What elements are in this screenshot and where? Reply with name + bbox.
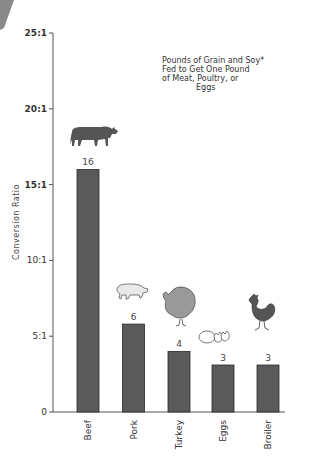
egg-shell-1 [214,332,222,342]
eggs-icon [199,331,229,343]
axes: 05:110:115:120:125:1 [25,28,285,417]
y-tick-label: 20:1 [25,104,47,114]
rooster-body [249,294,275,321]
egg-whole [199,331,215,343]
y-tick-label: 10:1 [27,255,47,265]
y-tick-label: 0 [41,407,47,417]
category-label-beef: Beef [83,419,93,440]
category-label-eggs: Eggs [218,420,228,442]
y-axis-title: Conversion Ratio [12,184,21,260]
cow-icon [70,127,118,146]
bar-eggs [212,365,234,412]
value-label-pork: 6 [131,312,137,322]
category-label-pork: Pork [129,419,139,439]
turkey-icon [163,287,195,326]
pig-shape [117,284,148,299]
turkey-body [163,287,195,318]
bar-turkey [168,351,190,412]
turkey-legs [176,319,186,326]
animal-icons [70,127,275,343]
rooster-icon [249,294,275,330]
bar-beef [77,169,99,412]
rooster-legs [255,321,269,330]
category-label-turkey: Turkey [174,419,184,450]
cow-shape [70,127,118,146]
category-label-broiler: Broiler [263,420,273,450]
value-label-eggs: 3 [220,353,226,363]
egg-shell-2 [221,331,229,341]
bar-pork [123,324,145,412]
bar-broiler [257,365,279,412]
pig-icon [117,284,148,299]
value-label-broiler: 3 [265,353,271,363]
y-tick-label: 25:1 [25,28,47,38]
bar-chart: 05:110:115:120:125:1 16Beef6Pork4Turkey3… [0,0,310,474]
y-tick-label: 15:1 [25,180,47,190]
value-label-beef: 16 [82,157,94,167]
y-tick-label: 5:1 [33,331,47,341]
value-label-turkey: 4 [176,339,182,349]
